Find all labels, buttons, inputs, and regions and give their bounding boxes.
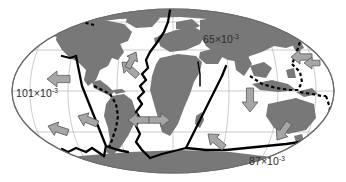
tectonic-plate-map-figure: 65×10-3 101×10-3 87×10-3 — [0, 0, 346, 182]
velocity-label-eurasia-mantissa: 65×10 — [203, 33, 233, 45]
velocity-label-south: 87×10-3 — [249, 156, 285, 167]
velocity-label-pacific-northeast-exponent: -3 — [52, 87, 58, 94]
land-new-zealand — [324, 122, 334, 136]
velocity-label-pacific-northeast-mantissa: 101×10 — [16, 87, 52, 99]
velocity-label-eurasia-exponent: -3 — [233, 33, 239, 40]
velocity-label-pacific-northeast: 101×10-3 — [16, 88, 58, 99]
velocity-label-south-exponent: -3 — [279, 155, 285, 162]
velocity-label-south-mantissa: 87×10 — [249, 155, 279, 167]
velocity-label-eurasia: 65×10-3 — [203, 34, 239, 45]
